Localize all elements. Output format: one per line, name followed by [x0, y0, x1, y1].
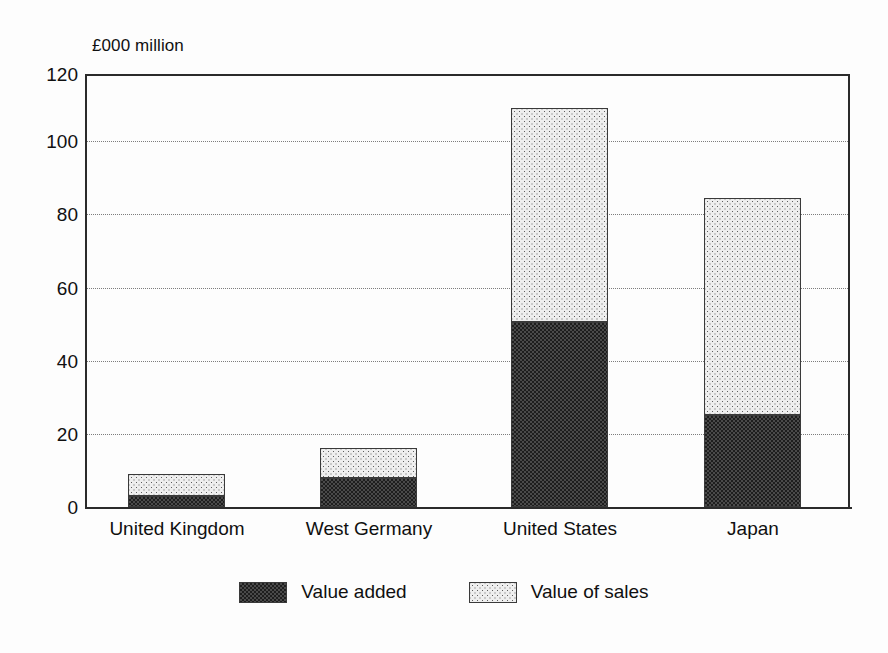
y-tick-label-20: 20 [6, 425, 78, 444]
bar-segment-value-of-sales [511, 108, 608, 322]
bar-segment-value-of-sales [128, 474, 225, 496]
bar-japan [704, 198, 801, 507]
x-axis-label-united-kingdom: United Kingdom [67, 518, 287, 540]
bar-united-kingdom [128, 474, 225, 507]
y-tick-label-40: 40 [6, 352, 78, 371]
legend-label-value-added: Value added [301, 581, 406, 603]
y-tick-label-100: 100 [6, 132, 78, 151]
x-axis-label-japan: Japan [643, 518, 863, 540]
y-axis-unit-label: £000 million [92, 36, 184, 56]
legend-item-value-of-sales: Value of sales [469, 581, 649, 603]
x-axis-label-west-germany: West Germany [259, 518, 479, 540]
bar-united-states [511, 108, 608, 507]
legend-swatch-dark-icon [239, 582, 287, 603]
chart-legend: Value added Value of sales [0, 581, 888, 603]
x-axis-label-united-states: United States [450, 518, 670, 540]
x-axis-line [85, 507, 852, 509]
bar-segment-value-added [704, 415, 801, 507]
bar-west-germany [320, 448, 417, 507]
bar-segment-value-of-sales [704, 198, 801, 415]
stacked-bar-chart: £000 million 120 100 80 60 40 20 0 Unite… [0, 0, 888, 653]
bar-segment-value-added [320, 478, 417, 507]
y-tick-label-0: 0 [6, 498, 78, 517]
y-tick-label-120: 120 [6, 65, 78, 84]
bar-segment-value-added [511, 322, 608, 507]
plot-right-border [848, 74, 850, 509]
bar-segment-value-added [128, 496, 225, 507]
legend-swatch-light-icon [469, 582, 517, 603]
y-tick-label-60: 60 [6, 279, 78, 298]
gridline-100 [87, 141, 848, 143]
y-axis-ticks: 120 100 80 60 40 20 0 [0, 0, 78, 653]
legend-item-value-added: Value added [239, 581, 406, 603]
legend-label-value-of-sales: Value of sales [531, 581, 649, 603]
y-tick-label-80: 80 [6, 205, 78, 224]
bar-segment-value-of-sales [320, 448, 417, 478]
